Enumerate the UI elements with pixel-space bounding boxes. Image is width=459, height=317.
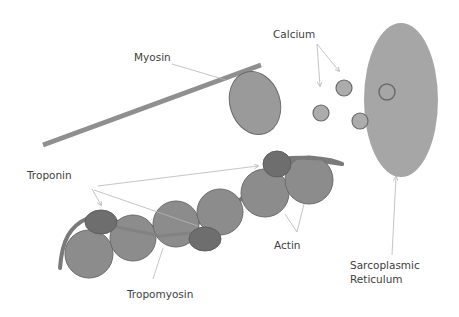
muscle-contraction-diagram: Myosin Calcium Troponin Actin Tropomyosi…: [0, 0, 459, 317]
sarcoplasmic-reticulum: [364, 23, 438, 177]
actin-globule: [285, 156, 333, 204]
sr-leader-line: [392, 177, 396, 255]
myosin-leader-line: [172, 64, 226, 80]
label-actin: Actin: [274, 238, 300, 252]
tropomyosin-leader-line: [153, 248, 163, 279]
troponin-complex: [189, 227, 221, 251]
troponin-leader-line: [98, 166, 258, 186]
actin-leader-line: [297, 204, 304, 232]
label-calcium: Calcium: [273, 27, 315, 41]
myosin-filament: [43, 65, 261, 145]
label-myosin: Myosin: [134, 50, 171, 64]
calcium-ion: [336, 80, 352, 96]
calcium-leader-line: [317, 44, 339, 71]
troponin-complex: [263, 151, 291, 177]
actin-globule: [65, 230, 113, 278]
label-troponin: Troponin: [27, 168, 72, 182]
troponin-leader-line: [92, 189, 101, 205]
calcium-leader-line: [317, 44, 320, 86]
troponin-complex: [85, 210, 117, 234]
calcium-ion: [313, 105, 329, 121]
calcium-ion: [352, 113, 368, 129]
label-tropomyosin: Tropomyosin: [127, 287, 193, 301]
label-reticulum: Reticulum: [350, 272, 403, 286]
actin-leader-line: [285, 214, 297, 232]
label-sarcoplasmic: Sarcoplasmic: [350, 258, 420, 272]
